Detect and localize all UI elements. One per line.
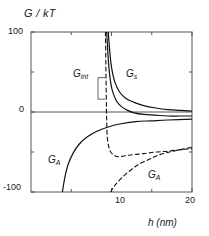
annotation-leader-line bbox=[98, 78, 106, 100]
curve-G_int_solid bbox=[107, 32, 192, 116]
plot-canvas bbox=[0, 0, 209, 236]
curve-G_A_dashed bbox=[111, 147, 192, 192]
curve-G_s bbox=[108, 32, 192, 111]
curve-G_A_solid bbox=[62, 119, 192, 192]
curve-G_int_dashed bbox=[105, 32, 192, 157]
chart-figure: G / kT h (nm) 100 0 -100 10 20 Gint Gs G… bbox=[0, 0, 209, 236]
